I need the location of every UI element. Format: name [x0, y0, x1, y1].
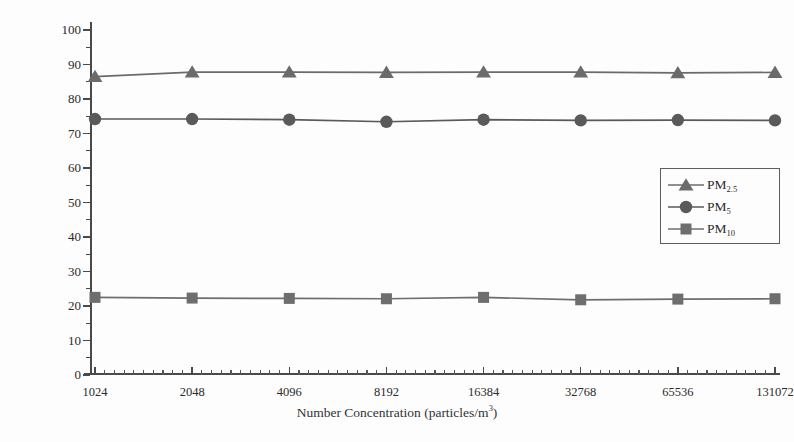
y-tick-major	[83, 202, 90, 203]
data-point-square	[478, 292, 489, 303]
y-tick-major	[83, 374, 90, 375]
data-point-circle	[186, 113, 198, 125]
legend-label: PM2.5	[707, 177, 737, 193]
x-tick-label: 2048	[180, 385, 205, 400]
data-point-square	[575, 294, 586, 305]
data-point-square	[770, 293, 781, 304]
y-tick-major	[83, 29, 90, 30]
y-tick-label: 50	[68, 195, 81, 211]
x-tick-label: 1024	[83, 385, 108, 400]
y-tick-major	[83, 133, 90, 134]
legend-marker	[681, 224, 692, 235]
data-point-square	[90, 292, 101, 303]
data-point-circle	[283, 114, 295, 126]
data-point-square	[381, 293, 392, 304]
chart-page: Sampling Efficiency(%) 01020304050607080…	[0, 0, 794, 442]
data-point-square	[672, 294, 683, 305]
legend-marker-circle-icon	[667, 199, 705, 215]
y-tick-label: 90	[68, 57, 81, 73]
y-tick-label: 70	[68, 126, 81, 142]
x-tick-label: 65536	[662, 385, 693, 400]
series-pm5	[89, 113, 781, 128]
legend-marker-triangle-icon	[667, 177, 705, 193]
x-axis-title-text: Number Concentration (particles/m	[297, 405, 489, 420]
y-tick-major	[83, 340, 90, 341]
data-point-square	[187, 293, 198, 304]
x-tick-label: 131072	[756, 385, 794, 400]
data-point-circle	[672, 114, 684, 126]
y-tick-major	[83, 271, 90, 272]
x-tick-label: 16384	[468, 385, 499, 400]
x-tick-label: 32768	[565, 385, 596, 400]
y-tick-label: 80	[68, 91, 81, 107]
y-tick-label: 20	[68, 298, 81, 314]
x-axis-title-tail: )	[493, 405, 498, 420]
series-pm10	[90, 292, 781, 305]
legend-item-pm10[interactable]: PM10	[667, 218, 779, 240]
y-tick-major	[83, 167, 90, 168]
legend: PM2.5PM5PM10	[660, 168, 780, 244]
y-tick-label: 60	[68, 160, 81, 176]
data-point-circle	[380, 116, 392, 128]
y-tick-label: 10	[68, 333, 81, 349]
data-point-circle	[89, 113, 101, 125]
legend-marker	[680, 201, 692, 213]
x-tick-label: 4096	[277, 385, 302, 400]
data-point-circle	[575, 114, 587, 126]
y-tick-label: 100	[62, 22, 82, 38]
data-point-square	[284, 293, 295, 304]
data-point-circle	[769, 114, 781, 126]
legend-label: PM10	[707, 221, 735, 237]
data-point-circle	[477, 114, 489, 126]
y-tick-major	[83, 305, 90, 306]
y-tick-major	[83, 64, 90, 65]
y-tick-label: 0	[75, 367, 82, 383]
x-tick-label: 8192	[374, 385, 399, 400]
y-tick-major	[83, 236, 90, 237]
legend-label: PM5	[707, 199, 731, 215]
y-tick-label: 30	[68, 264, 81, 280]
y-tick-major	[83, 98, 90, 99]
y-tick-label: 40	[68, 229, 81, 245]
x-axis-title: Number Concentration (particles/m3)	[0, 404, 794, 421]
series-pm2-5	[88, 65, 783, 82]
legend-item-pm2-5[interactable]: PM2.5	[667, 174, 779, 196]
legend-marker-square-icon	[667, 221, 705, 237]
legend-item-pm5[interactable]: PM5	[667, 196, 779, 218]
